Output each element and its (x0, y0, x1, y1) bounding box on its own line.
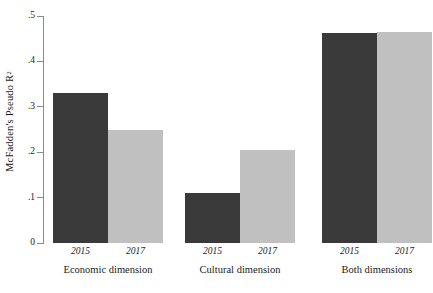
bar-2015-cultural-dimension (185, 193, 240, 243)
x-axis-year-label: 2015 (322, 247, 377, 257)
y-axis-title: McFadden's Pseudo R2 (0, 0, 18, 243)
y-axis-tick-label: .1 (18, 193, 35, 203)
y-axis-tick-label: .4 (18, 56, 35, 66)
plot-area (43, 16, 433, 243)
y-axis-tick-label: 0 (18, 238, 35, 248)
x-axis-year-label: 2017 (108, 247, 163, 257)
x-axis-year-label: 2017 (240, 247, 295, 257)
bar-2015-economic-dimension (53, 93, 108, 243)
y-axis-tick-label: .2 (18, 147, 35, 157)
y-axis-tick-label: .5 (18, 11, 35, 21)
y-axis-title-text: McFadden's Pseudo R (4, 75, 15, 172)
bar-chart: McFadden's Pseudo R2 .5.4.3.2.10 2015201… (0, 0, 433, 293)
x-axis-year-label: 2017 (377, 247, 432, 257)
x-axis-group-label: Both dimensions (292, 265, 433, 276)
bar-2017-economic-dimension (108, 130, 163, 244)
y-axis-tick-label: .3 (18, 102, 35, 112)
bar-2017-both-dimensions (377, 32, 432, 243)
x-axis-year-label: 2015 (185, 247, 240, 257)
bar-2015-both-dimensions (322, 33, 377, 243)
x-axis-year-label: 2015 (53, 247, 108, 257)
bar-2017-cultural-dimension (240, 150, 295, 243)
